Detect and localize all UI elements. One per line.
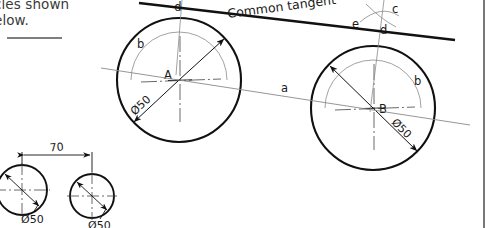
label-diameter-left: Ø50 — [128, 93, 153, 118]
label-common-tangent: Common tangent — [226, 0, 336, 21]
label-small-diameter-right: Ø50 — [88, 219, 111, 228]
label-a: a — [281, 81, 288, 95]
label-arc-b-left: b — [137, 37, 144, 51]
label-d-right: d — [380, 23, 387, 37]
small-right-diameter-arrow-1 — [77, 182, 92, 196]
construction-line-d-right — [370, 0, 384, 112]
label-distance-70: 70 — [49, 140, 64, 154]
instruction-text: cles shown elow. — [0, 0, 124, 28]
instruction-line-2: elow. — [0, 12, 124, 28]
label-c: c — [392, 2, 398, 16]
label-center-a: A — [164, 68, 172, 82]
small-left-diameter-arrow-1 — [5, 174, 22, 190]
diameter-arrow-right — [330, 66, 373, 108]
small-left-diameter-arrow-2 — [22, 190, 39, 206]
instruction-line-1: cles shown — [0, 0, 124, 12]
engineering-drawing: A b Ø50 d B b Ø50 c — [0, 0, 501, 228]
label-small-diameter-left: Ø50 — [21, 213, 44, 226]
label-diameter-right: Ø50 — [389, 116, 414, 141]
label-center-b: B — [379, 102, 387, 116]
small-right-diameter-arrow-2 — [92, 196, 107, 210]
label-arc-b-right: b — [414, 74, 421, 88]
construction-arc-b-right — [325, 60, 421, 108]
diameter-arrow-left — [179, 39, 224, 80]
drawing-canvas: A b Ø50 d B b Ø50 c — [0, 0, 501, 228]
